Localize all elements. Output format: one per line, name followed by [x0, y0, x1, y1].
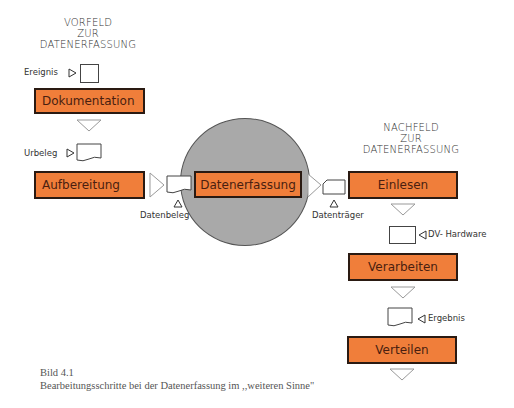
flow-arrow-down-icon [76, 119, 102, 132]
doc-label: Urbeleg [24, 148, 57, 158]
pointer-up-icon [329, 199, 339, 208]
flow-arrow-down-icon [389, 368, 415, 381]
result-label: Ergebnis [428, 313, 465, 323]
datenbeleg-label: Datenbeleg [140, 210, 189, 220]
hardware-label: DV- Hardware [428, 229, 487, 239]
flow-arrow-right-icon [307, 173, 322, 198]
step-einlesen: Einlesen [348, 171, 458, 199]
figure-number: Bild 4.1 [40, 366, 360, 379]
flow-arrow-down-icon [390, 286, 416, 299]
pointer-up-icon [173, 199, 183, 208]
step-datenerfassung: Datenerfassung [194, 171, 302, 198]
figure-caption: Bild 4.1 Bearbeitungsschritte bei der Da… [40, 366, 360, 392]
flow-arrow-down-icon [390, 203, 416, 216]
flow-arrow-right-icon [149, 172, 165, 198]
pointer-left-icon [416, 314, 426, 324]
step-dokumentation: Dokumentation [34, 88, 145, 114]
document-icon [166, 175, 192, 195]
step-verteilen: Verteilen [347, 336, 457, 364]
post-field-heading: NACHFELD ZUR DATENERFASSUNG [356, 122, 466, 155]
data-carrier-icon [322, 179, 346, 195]
event-label: Ereignis [24, 67, 58, 77]
event-box [80, 64, 99, 83]
pointer-right-icon [68, 68, 78, 78]
hardware-box [389, 226, 416, 244]
document-icon [76, 143, 102, 163]
pre-field-heading: VORFELD ZUR DATENERFASSUNG [28, 17, 148, 50]
figure-description: Bearbeitungsschritte bei der Datenerfass… [40, 379, 360, 392]
step-verarbeiten: Verarbeiten [348, 253, 458, 281]
document-icon [387, 307, 413, 328]
datentraeger-label: Datenträger [312, 210, 364, 220]
step-aufbereitung: Aufbereitung [34, 171, 145, 199]
pointer-right-icon [66, 148, 76, 158]
pointer-left-icon [417, 230, 427, 240]
